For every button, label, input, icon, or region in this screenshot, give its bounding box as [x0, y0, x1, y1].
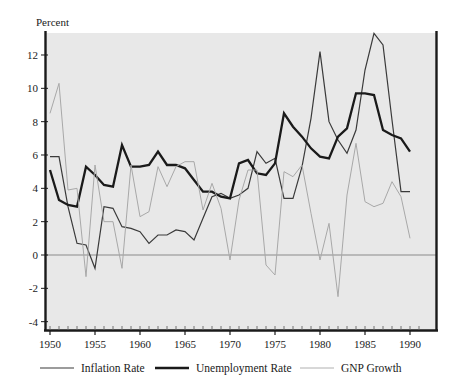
x-tick-label: 1965 [174, 338, 197, 350]
y-tick-label: 12 [27, 49, 38, 61]
legend-label-gnp-growth: GNP Growth [341, 362, 402, 374]
y-tick-label: -2 [29, 282, 38, 294]
y-tick-label: 0 [33, 249, 39, 261]
y-tick-label: 6 [33, 149, 39, 161]
y-tick-label: 4 [33, 182, 39, 194]
y-tick-label: -4 [29, 316, 39, 328]
chart-legend: Inflation RateUnemployment RateGNP Growt… [40, 362, 402, 375]
x-tick-label: 1970 [219, 338, 242, 350]
x-tick-label: 1960 [129, 338, 152, 350]
y-tick-label: 10 [27, 82, 39, 94]
y-axis-title: Percent [36, 16, 69, 28]
x-tick-label: 1990 [399, 338, 422, 350]
x-tick-label: 1975 [264, 338, 287, 350]
plot-background [45, 33, 437, 330]
chart-figure: 121086420-2-4 19501955196019651970197519… [0, 0, 459, 392]
chart-canvas: 121086420-2-4 19501955196019651970197519… [0, 0, 459, 392]
y-tick-label: 8 [33, 116, 39, 128]
x-tick-label: 1955 [84, 338, 107, 350]
legend-label-unemployment-rate: Unemployment Rate [196, 362, 292, 375]
y-tick-label: 2 [33, 216, 39, 228]
x-tick-label: 1980 [309, 338, 332, 350]
x-axis-ticks: 195019551960196519701975198019851990 [39, 330, 422, 350]
legend-label-inflation-rate: Inflation Rate [81, 362, 145, 374]
x-tick-label: 1985 [354, 338, 377, 350]
x-tick-label: 1950 [39, 338, 62, 350]
